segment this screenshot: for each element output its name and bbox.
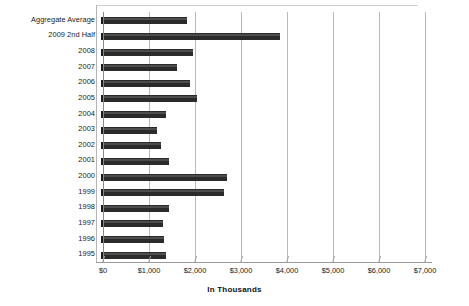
- bar-highlight: [103, 253, 166, 255]
- category-label: 2002: [78, 140, 95, 149]
- bar: [103, 95, 255, 102]
- bar: [103, 33, 388, 40]
- category-label: 2000: [78, 171, 95, 180]
- bar-taper: [169, 158, 209, 165]
- axis-tick-label: $1,000: [138, 266, 161, 275]
- plot-area: [103, 12, 425, 262]
- category-axis: Aggregate Average2009 2nd Half2008200720…: [0, 0, 99, 306]
- category-label: 2004: [78, 109, 95, 118]
- x-axis-title: In Thousands: [0, 285, 469, 294]
- bar-highlight: [103, 18, 187, 20]
- bar-taper: [157, 127, 190, 134]
- category-label: 1996: [78, 234, 95, 243]
- bar: [103, 189, 299, 196]
- category-label: 2009 2nd Half: [48, 30, 95, 39]
- bar-highlight: [103, 65, 177, 67]
- bar: [103, 252, 204, 259]
- axis-tick-label: $5,000: [322, 266, 345, 275]
- bar-taper: [164, 236, 202, 243]
- category-label: 1998: [78, 202, 95, 211]
- bar-taper: [227, 174, 303, 181]
- value-axis-spine: [103, 12, 104, 262]
- bar-taper: [169, 205, 209, 212]
- gridline: [425, 12, 426, 262]
- axis-tick-label: $0: [99, 266, 107, 275]
- category-label: 2001: [78, 155, 95, 164]
- bar-taper: [197, 95, 255, 102]
- gridline: [379, 12, 380, 262]
- value-axis-back-spine: [96, 5, 97, 262]
- category-label: 1995: [78, 249, 95, 258]
- bar-highlight: [103, 143, 161, 145]
- bar-taper: [166, 111, 204, 118]
- category-label: Aggregate Average: [31, 15, 95, 24]
- bar-taper: [193, 49, 248, 56]
- bar: [103, 205, 209, 212]
- bar-taper: [161, 142, 197, 149]
- bar: [103, 80, 243, 87]
- bar-highlight: [103, 50, 193, 52]
- category-label: 1997: [78, 218, 95, 227]
- bar: [103, 158, 209, 165]
- category-label: 2006: [78, 77, 95, 86]
- bar: [103, 236, 202, 243]
- bar-highlight: [103, 81, 190, 83]
- axis-tick-label: $7,000: [414, 266, 437, 275]
- bar-taper: [187, 17, 239, 24]
- bar: [103, 17, 239, 24]
- axis-tick-label: $6,000: [368, 266, 391, 275]
- bar: [103, 64, 223, 71]
- category-label: 2005: [78, 93, 95, 102]
- bar: [103, 142, 197, 149]
- bar-taper: [166, 252, 204, 259]
- bar: [103, 127, 190, 134]
- plot-back-edge-top: [96, 5, 418, 6]
- axis-tick-label: $3,000: [230, 266, 253, 275]
- bar-highlight: [103, 96, 197, 98]
- bar-highlight: [103, 190, 224, 192]
- category-label: 2003: [78, 124, 95, 133]
- bar-taper: [280, 33, 388, 40]
- bar-taper: [190, 80, 243, 87]
- bar: [103, 49, 248, 56]
- bar: [103, 111, 204, 118]
- bar-taper: [163, 220, 200, 227]
- bar: [103, 174, 303, 181]
- category-label: 1999: [78, 187, 95, 196]
- gridline: [333, 12, 334, 262]
- bar-taper: [177, 64, 222, 71]
- axis-tick-label: $4,000: [276, 266, 299, 275]
- bar-highlight: [103, 128, 157, 130]
- bar-highlight: [103, 112, 166, 114]
- bar: [103, 220, 200, 227]
- bar-highlight: [103, 175, 227, 177]
- category-label: 2008: [78, 46, 95, 55]
- bar-highlight: [103, 206, 169, 208]
- bar-highlight: [103, 221, 163, 223]
- bar-chart: Aggregate Average2009 2nd Half2008200720…: [0, 0, 469, 306]
- bar-highlight: [103, 159, 169, 161]
- bar-highlight: [103, 237, 164, 239]
- value-axis-line: [96, 262, 432, 263]
- category-label: 2007: [78, 62, 95, 71]
- axis-tick-label: $2,000: [184, 266, 207, 275]
- gridline: [287, 12, 288, 262]
- bar-highlight: [103, 34, 280, 36]
- bar-taper: [224, 189, 298, 196]
